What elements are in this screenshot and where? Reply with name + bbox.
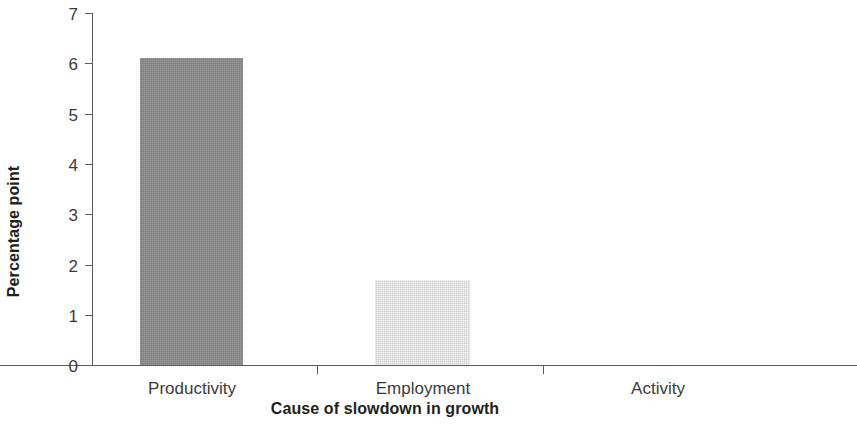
y-tick-label-0: 0 [69,357,78,374]
y-tick-label-2: 2 [69,257,78,274]
y-tick-5: 5 [85,114,92,115]
x-category-label-productivity: Productivity [148,380,236,397]
y-tick-label-1: 1 [69,307,78,324]
y-axis-title-text: Percentage point [5,166,23,297]
y-tick-4: 4 [85,164,92,165]
x-tick-separator-1 [317,366,318,374]
y-tick-label-4: 4 [69,156,78,173]
y-tick-label-3: 3 [69,206,78,223]
y-axis-title: Percentage point [0,0,30,431]
x-category-label-activity: Activity [631,380,685,397]
x-axis-title: Cause of slowdown in growth [0,400,770,418]
x-axis-line [0,365,857,366]
y-tick-3: 3 [85,214,92,215]
y-tick-label-7: 7 [69,5,78,22]
bar-employment [375,280,470,365]
plot-area: 7 6 5 4 3 2 1 0 Productivity Employment … [92,13,765,365]
y-tick-2: 2 [85,265,92,266]
bar-productivity [140,58,243,365]
x-tick-separator-2 [543,366,544,374]
y-tick-7: 7 [85,13,92,14]
x-category-label-employment: Employment [376,380,470,397]
y-tick-label-5: 5 [69,106,78,123]
y-tick-label-6: 6 [69,55,78,72]
y-tick-6: 6 [85,63,92,64]
y-tick-0: 0 [85,365,92,366]
y-tick-1: 1 [85,315,92,316]
y-axis-line [92,13,93,365]
